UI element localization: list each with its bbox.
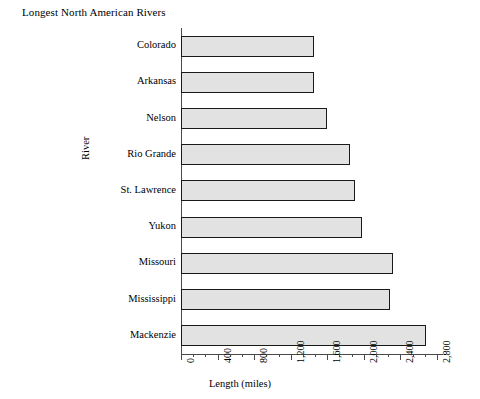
bar-row	[181, 173, 437, 209]
x-axis-tick	[254, 354, 255, 360]
y-axis-tick-label: Mississippi	[36, 293, 176, 304]
bar-missouri[interactable]	[181, 253, 393, 274]
x-axis-tick	[218, 354, 219, 360]
x-axis-tick-label: 1,200	[295, 341, 306, 364]
bar-row	[181, 282, 437, 318]
x-axis-minor-tick	[230, 354, 231, 357]
bar-row	[181, 318, 437, 354]
bar-chart: Longest North American Rivers River Colo…	[0, 0, 480, 399]
x-axis-minor-tick	[279, 354, 280, 357]
bar-row	[181, 137, 437, 173]
y-axis-tick-labels: ColoradoArkansasNelsonRio GrandeSt. Lawr…	[36, 28, 176, 354]
bar-colorado[interactable]	[181, 36, 314, 57]
x-axis-tick	[437, 354, 438, 360]
x-axis-minor-tick	[352, 354, 353, 357]
bar-row	[181, 100, 437, 136]
x-axis-minor-tick	[339, 354, 340, 357]
x-axis-tick	[327, 354, 328, 360]
x-axis-minor-tick	[315, 354, 316, 357]
y-axis-tick-label: Arkansas	[36, 75, 176, 86]
x-axis-minor-tick	[376, 354, 377, 357]
bar-row	[181, 64, 437, 100]
x-axis-title: Length (miles)	[0, 378, 480, 389]
x-axis-tick-label: 400	[222, 348, 233, 363]
bar-yukon[interactable]	[181, 217, 362, 238]
bar-arkansas[interactable]	[181, 72, 314, 93]
bar-nelson[interactable]	[181, 108, 327, 129]
x-axis-minor-tick	[388, 354, 389, 357]
x-axis-tick	[400, 354, 401, 360]
x-axis-minor-tick	[193, 354, 194, 357]
y-axis-tick-label: Nelson	[36, 112, 176, 123]
bar-st-lawrence[interactable]	[181, 180, 355, 201]
x-axis-minor-tick	[303, 354, 304, 357]
x-axis-tick	[364, 354, 365, 360]
x-axis-minor-tick	[413, 354, 414, 357]
y-axis-tick-label: St. Lawrence	[36, 184, 176, 195]
x-axis-tick	[181, 354, 182, 360]
bar-row	[181, 28, 437, 64]
y-axis-tick-label: Mackenzie	[36, 329, 176, 340]
x-axis-minor-tick	[266, 354, 267, 357]
x-axis-tick-label: 2,800	[441, 341, 452, 364]
bar-rio-grande[interactable]	[181, 144, 350, 165]
chart-title: Longest North American Rivers	[22, 6, 166, 18]
bar-row	[181, 245, 437, 281]
x-axis-tick	[291, 354, 292, 360]
x-axis-minor-tick	[242, 354, 243, 357]
x-axis-tick-label: 2,000	[368, 341, 379, 364]
x-axis-tick-label: 2,400	[404, 341, 415, 364]
x-axis-tick-label: 1,600	[331, 341, 342, 364]
y-axis-tick-label: Rio Grande	[36, 148, 176, 159]
x-axis-tick-label: 0	[185, 358, 196, 363]
y-axis-tick-label: Yukon	[36, 220, 176, 231]
bar-mississippi[interactable]	[181, 289, 390, 310]
x-axis-tick-label: 800	[258, 348, 269, 363]
x-axis-minor-tick	[205, 354, 206, 357]
y-axis-tick-label: Colorado	[36, 39, 176, 50]
x-axis-minor-tick	[425, 354, 426, 357]
plot-area	[181, 28, 437, 354]
y-axis-tick-label: Missouri	[36, 256, 176, 267]
bar-row	[181, 209, 437, 245]
